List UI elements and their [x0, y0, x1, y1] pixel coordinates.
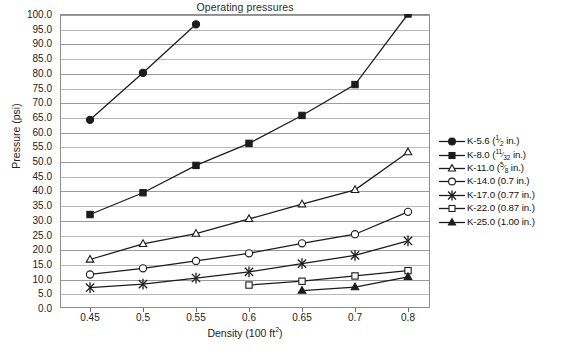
marker-filled-square: [299, 112, 305, 118]
x-axis-title-tail: ): [279, 327, 283, 339]
x-axis-tick: [302, 308, 303, 312]
series-line: [90, 241, 408, 288]
legend-label: K-5.6 (1⁄2 in.): [467, 134, 519, 147]
marker-open-square: [246, 282, 252, 288]
legend-label: K-17.0 (0.77 in.): [467, 189, 535, 200]
legend-key-open-triangle: [437, 161, 467, 174]
y-axis-tick-label: 50.0: [33, 156, 52, 167]
marker-filled-square: [193, 162, 199, 168]
y-axis-title: Pressure (psi): [10, 86, 22, 186]
y-axis-tick-label: 15.0: [33, 258, 52, 269]
marker-open-circle: [245, 250, 252, 257]
y-axis-tick-label: 90.0: [33, 38, 52, 49]
legend-item-3[interactable]: K-14.0 (0.7 in.): [437, 174, 569, 187]
marker-filled-circle: [449, 138, 456, 145]
marker-open-square: [299, 278, 305, 284]
data-series-layer: [60, 14, 430, 308]
legend-label: K-22.0 (0.87 in.): [467, 202, 535, 213]
marker-open-triangle: [404, 148, 412, 155]
marker-filled-square: [140, 190, 146, 196]
legend-label: K-11.0 (5⁄8 in.): [467, 161, 524, 174]
x-axis-tick-label: 0.8: [401, 312, 415, 323]
series-0: [86, 21, 199, 124]
marker-open-square: [449, 206, 455, 212]
marker-filled-square: [246, 140, 252, 146]
legend-item-6[interactable]: K-25.0 (1.00 in.): [437, 214, 569, 227]
marker-open-circle: [449, 178, 456, 185]
y-axis-tick-label: 70.0: [33, 97, 52, 108]
marker-open-triangle: [448, 165, 455, 171]
y-axis-tick-label: 75.0: [33, 82, 52, 93]
y-axis-tick-label: 65.0: [33, 111, 52, 122]
series-2: [86, 148, 412, 262]
marker-open-circle: [298, 240, 305, 247]
series-line: [249, 271, 408, 285]
x-axis-tick-label: 0.6: [242, 312, 256, 323]
marker-open-circle: [139, 265, 146, 272]
y-axis-tick-label: 95.0: [33, 23, 52, 34]
chart-title: Operating pressures: [60, 1, 430, 13]
x-axis-tick-label: 0.5: [136, 312, 150, 323]
y-axis-tick-label: 5.0: [38, 288, 52, 299]
x-axis-tick: [408, 308, 409, 312]
marker-filled-square: [449, 152, 455, 158]
y-axis-tick-label: 85.0: [33, 53, 52, 64]
x-axis-tick-label: 0.45: [80, 312, 99, 323]
marker-open-circle: [351, 231, 358, 238]
legend-item-0[interactable]: K-5.6 (1⁄2 in.): [437, 134, 569, 147]
marker-filled-circle: [192, 21, 199, 28]
y-axis-tick-label: 60.0: [33, 126, 52, 137]
marker-filled-circle: [86, 116, 93, 123]
x-axis-tick: [249, 308, 250, 312]
legend: K-5.6 (1⁄2 in.)K-8.0 (11⁄32 in.)K-11.0 (…: [437, 134, 569, 228]
x-axis-tick-label: 0.7: [348, 312, 362, 323]
series-line: [90, 14, 408, 215]
x-axis-tick-label: 0.65: [292, 312, 311, 323]
legend-item-5[interactable]: K-22.0 (0.87 in.): [437, 201, 569, 214]
marker-open-circle: [86, 271, 93, 278]
legend-key-filled-circle: [437, 134, 467, 147]
y-axis-tick-labels: 0.05.010.015.020.025.030.035.040.045.050…: [0, 14, 56, 308]
legend-key-filled-triangle: [437, 215, 467, 228]
y-axis-tick-label: 25.0: [33, 229, 52, 240]
y-axis-tick-label: 35.0: [33, 200, 52, 211]
marker-filled-square: [405, 14, 411, 17]
series-1: [87, 14, 411, 218]
x-axis-tick-labels: 0.450.50.550.60.650.70.8: [60, 310, 430, 326]
legend-label: K-8.0 (11⁄32 in.): [467, 148, 526, 161]
x-axis-tick: [90, 308, 91, 312]
y-axis-tick-label: 45.0: [33, 170, 52, 181]
y-axis-tick-label: 30.0: [33, 214, 52, 225]
y-axis-tick-label: 100.0: [27, 9, 52, 20]
legend-key-filled-square: [437, 148, 467, 161]
marker-open-triangle: [351, 186, 359, 193]
y-axis-tick-label: 20.0: [33, 244, 52, 255]
x-axis-title-base: Density (100 ft: [207, 327, 275, 339]
y-axis-tick-label: 0.0: [38, 303, 52, 314]
legend-item-1[interactable]: K-8.0 (11⁄32 in.): [437, 147, 569, 160]
marker-filled-circle: [139, 69, 146, 76]
y-axis-tick-label: 10.0: [33, 273, 52, 284]
legend-key-asterisk: [437, 188, 467, 201]
marker-filled-square: [352, 81, 358, 87]
x-axis-tick: [196, 308, 197, 312]
legend-item-4[interactable]: K-17.0 (0.77 in.): [437, 188, 569, 201]
legend-item-2[interactable]: K-11.0 (5⁄8 in.): [437, 161, 569, 174]
chart-root: Operating pressures 0.05.010.015.020.025…: [0, 0, 572, 354]
x-axis-tick: [355, 308, 356, 312]
x-axis-tick-label: 0.55: [186, 312, 205, 323]
marker-open-circle: [404, 208, 411, 215]
series-line: [90, 152, 408, 259]
x-axis-tick: [143, 308, 144, 312]
y-axis-tick-label: 40.0: [33, 185, 52, 196]
x-axis-title: Density (100 ft2): [60, 326, 430, 339]
y-axis-tick-label: 55.0: [33, 141, 52, 152]
series-5: [246, 268, 411, 289]
legend-label: K-14.0 (0.7 in.): [467, 175, 529, 186]
marker-open-square: [352, 273, 358, 279]
legend-key-open-circle: [437, 174, 467, 187]
marker-filled-square: [87, 211, 93, 217]
legend-label: K-25.0 (1.00 in.): [467, 216, 535, 227]
marker-asterisk: [404, 236, 412, 247]
y-axis-tick-label: 80.0: [33, 67, 52, 78]
